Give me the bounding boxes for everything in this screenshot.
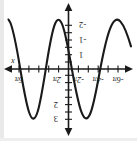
x-tick-label-neg2pi: -2π <box>72 75 84 84</box>
bottom-edge-shade <box>0 138 137 141</box>
y-axis-top-arrow-icon <box>65 128 73 136</box>
x-tick-label-2pi: 2π <box>52 75 61 84</box>
y-tick-label-neg1: 1 <box>79 50 83 60</box>
trig-graph-svg: -6π -4π -2π 2π 6π 3 2 1 -1 -2 x <box>0 0 137 141</box>
y-tick-label-neg2: -1 <box>79 35 86 45</box>
x-tick-label-6pi: 6π <box>14 75 23 84</box>
graph-canvas: -6π -4π -2π 2π 6π 3 2 1 -1 -2 x <box>0 0 137 141</box>
x-tick-label-neg6pi: -6π <box>112 75 124 84</box>
x-axis-right-arrow-icon <box>4 65 12 73</box>
y-tick-label-3: 3 <box>54 114 58 124</box>
y-tick-label-2: 2 <box>54 100 58 110</box>
rotated-figure-container: -6π -4π -2π 2π 6π 3 2 1 -1 -2 x <box>0 0 137 141</box>
left-edge-shade <box>0 0 4 141</box>
x-axis-left-arrow-icon <box>125 65 133 73</box>
x-axis-label: x <box>11 57 16 66</box>
y-tick-label-neg3: -2 <box>79 20 86 30</box>
y-axis-bottom-arrow-icon <box>65 3 73 11</box>
x-tick-label-neg4pi: -4π <box>92 75 104 84</box>
